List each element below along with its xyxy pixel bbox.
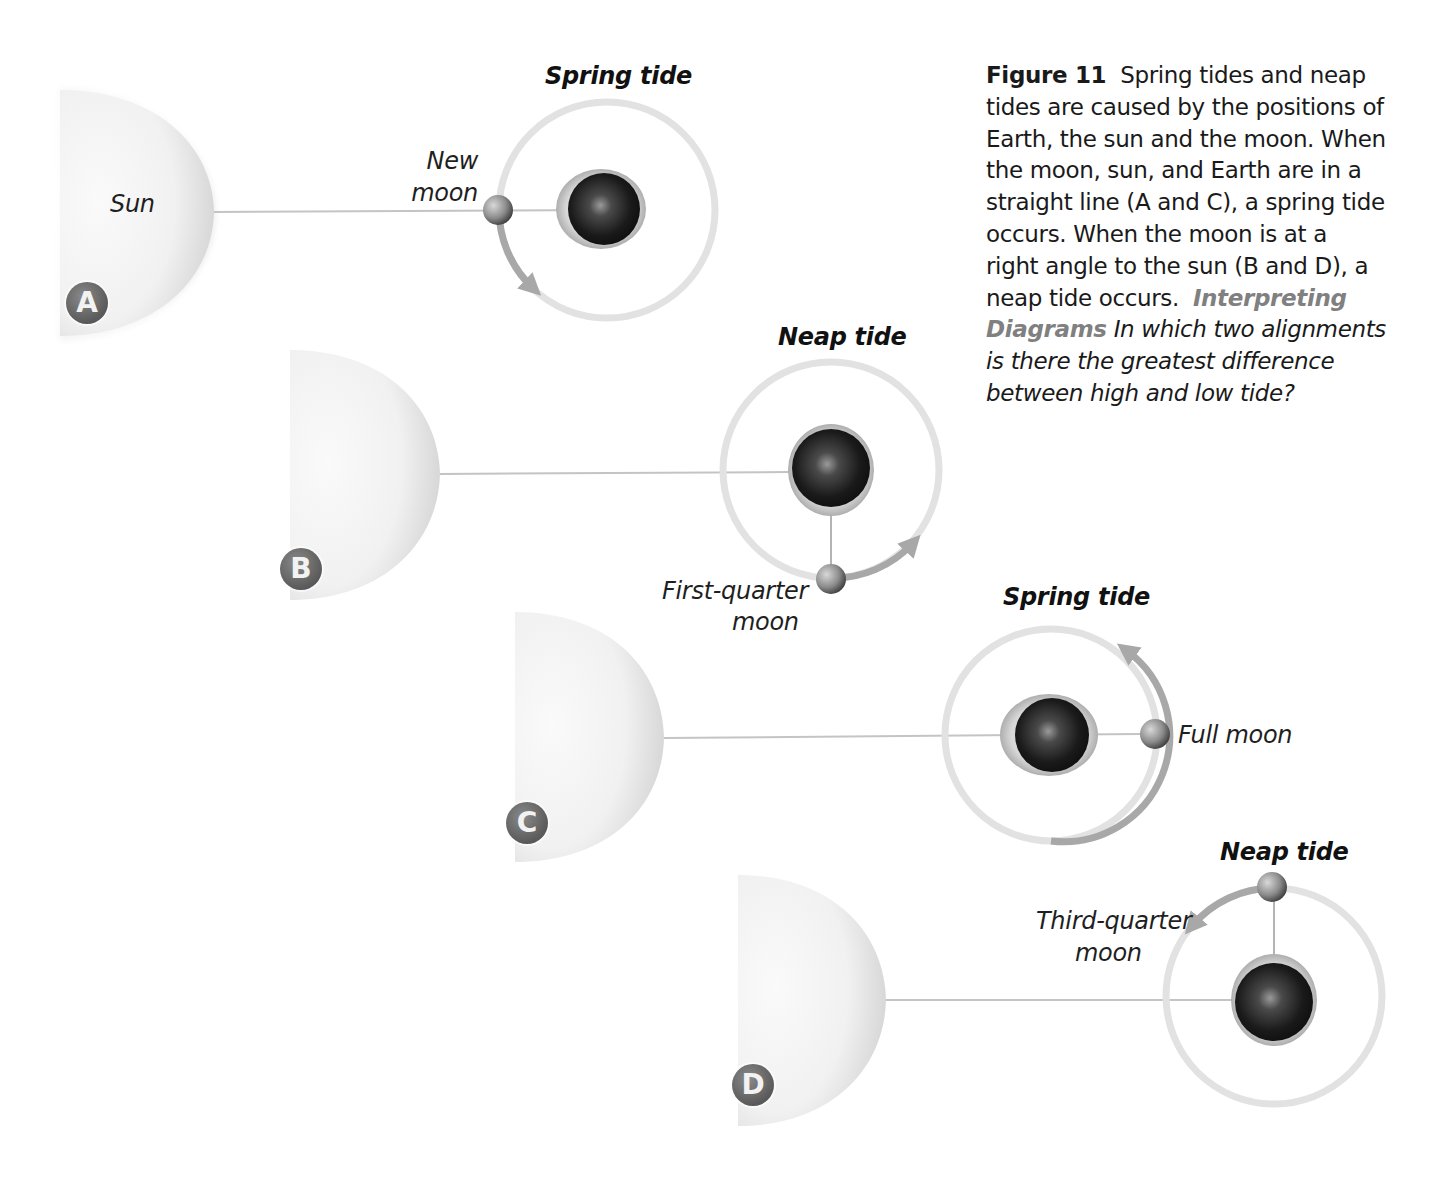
first-quarter-moon-icon — [816, 564, 846, 594]
panel-c-title: Spring tide — [1003, 583, 1150, 611]
third-quarter-label-line1: Third-quarter — [1036, 905, 1191, 937]
panel-a-title: Spring tide — [545, 62, 692, 90]
third-quarter-label-line2: moon — [1075, 937, 1142, 969]
panel-b — [290, 350, 939, 600]
tide-diagram: Spring tide Sun New moon A Neap tide Fir… — [0, 0, 1452, 1180]
badge-c: C — [506, 802, 548, 844]
figure-caption: Figure 11 Spring tides and neap tides ar… — [986, 60, 1386, 410]
figure-label: Figure 11 — [986, 62, 1106, 88]
first-quarter-label-line2: moon — [732, 606, 799, 638]
badge-b: B — [280, 548, 322, 590]
first-quarter-label-line1: First-quarter — [662, 575, 808, 607]
panel-d-title: Neap tide — [1220, 838, 1349, 866]
new-moon-icon — [483, 195, 513, 225]
panel-c — [515, 612, 1170, 862]
sun-label: Sun — [110, 188, 155, 220]
badge-a: A — [66, 282, 108, 324]
panel-a — [60, 88, 715, 340]
full-moon-label: Full moon — [1178, 719, 1292, 751]
third-quarter-moon-icon — [1257, 872, 1287, 902]
new-moon-label-line2: moon — [400, 177, 478, 209]
full-moon-icon — [1140, 719, 1170, 749]
badge-d: D — [732, 1064, 774, 1106]
new-moon-label-line1: New — [410, 145, 478, 177]
panel-b-title: Neap tide — [778, 323, 907, 351]
caption-body: Spring tides and neap tides are caused b… — [986, 62, 1386, 311]
